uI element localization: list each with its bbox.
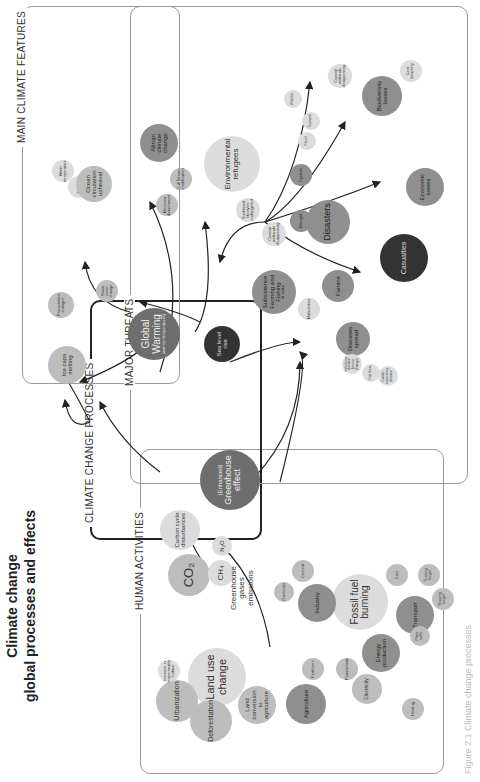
bubble-land-conversion: Land conversion to agriculture <box>238 686 276 724</box>
bubble-abrupt-climate-change: Abrupt climate change <box>140 124 178 162</box>
bubble-ice-caps-melting: Ice caps melting <box>48 346 86 384</box>
bubble-agriculture: Agriculture <box>286 684 326 724</box>
bubble-infectious-disease: Infectious disease (vector change) <box>342 354 362 374</box>
bubble-ocean-circulation: Ocean circulation upheaval <box>76 166 112 202</box>
bubble-traditional-lifestyles: Traditional lifestyles endangered <box>236 198 260 222</box>
diagram-canvas: Climate change global processes and effe… <box>0 0 480 782</box>
bubble-cyclone: Cyclone <box>290 164 312 186</box>
bubble-environmental-refugees: Environmental refugees <box>204 136 260 192</box>
bubble-energy-production: Energy production <box>362 634 400 672</box>
bubble-snow-cover-change: Snow cover change <box>96 280 118 302</box>
bubble-n2o: N₂O <box>212 536 232 556</box>
figure-caption: Figure 2.1 Climate change processes <box>463 625 473 774</box>
bubble-coastal-wetlands-1: Coastal wetlands disappearing <box>262 222 286 246</box>
title-line-1: Climate change <box>4 496 22 716</box>
bubble-global-warming: Global Warming (warmer temperatures) <box>128 308 180 360</box>
ghg-emissions-label: Greenhouse gases emissions <box>230 560 255 616</box>
bubble-biodiversity-losses: Biodiversity losses <box>362 76 402 116</box>
bubble-drought: Drought <box>290 210 312 232</box>
bubble-casualties: Casualties <box>380 234 428 282</box>
bubble-co2: CO₂ <box>168 554 210 596</box>
bubble-heating: Heating <box>402 698 424 720</box>
bubble-trucking-freight: Trucking freight <box>418 564 440 586</box>
bubble-deforestation: Deforestation <box>190 700 232 742</box>
bubble-chemicals: Chemicals <box>274 582 294 602</box>
bubble-greenhouse-effect: (Enhanced) Greenhouse effect <box>200 450 260 510</box>
bubble-monsoon-disturbances: Monsoon disturbances <box>156 194 178 216</box>
bubble-diseases-spread: Diseases spread <box>336 322 370 356</box>
bubble-precipitation-changes: Precipitation changes <box>48 292 74 318</box>
bubble-fertilizers: Fertilizers <box>302 658 324 680</box>
bubble-impermeable-surface: Increase in impermeable surface <box>158 660 180 682</box>
bubble-coral-bleaching: Coral bleaching <box>400 60 422 82</box>
bubble-electricity: Electricity <box>352 674 382 704</box>
bubble-cement: Cement <box>292 560 314 582</box>
bubble-malnutrition: Malnutrition <box>298 298 320 320</box>
bubble-powerplants: Powerplants <box>336 658 358 680</box>
bubble-disasters: Disasters <box>306 200 350 244</box>
bubble-economic-losses: Economic losses <box>406 168 444 206</box>
bubble-carbon-cycle: Carbon cycle disturbances <box>160 510 200 550</box>
bubble-sea-level-rise: Sea level rise <box>204 326 240 362</box>
title-line-2: global processes and effects <box>22 496 40 716</box>
bubble-shipping-freight: Shipping freight <box>432 588 454 610</box>
bubble-fossil-fuel-burning: Fossil fuel burning <box>332 574 388 630</box>
bubble-cardio-respiratory: Cardio-respiratory disease <box>378 366 398 386</box>
main-climate-features-label: MAIN CLIMATE FEATURES <box>16 7 27 147</box>
bubble-industry: Industry <box>298 584 336 622</box>
bubble-gulf-stream: Gulf Stream modification <box>170 168 192 190</box>
bubble-flood: Flood <box>298 132 316 150</box>
bubble-coastal-wetlands-2: Coastal wetlands disappearing <box>328 64 352 88</box>
diagram-title: Climate change global processes and effe… <box>4 496 39 716</box>
bubble-plane-traffic: Plane traffic <box>410 626 430 646</box>
bubble-famine: Famine <box>322 270 354 302</box>
bubble-cars: Cars <box>386 564 408 586</box>
bubble-subsistence-farming: Subsistence Farming and Fishing at stake <box>252 270 296 314</box>
bubble-tsunami: Tsunami <box>302 112 320 130</box>
bubble-wild-fire: Wild fire <box>284 90 302 108</box>
